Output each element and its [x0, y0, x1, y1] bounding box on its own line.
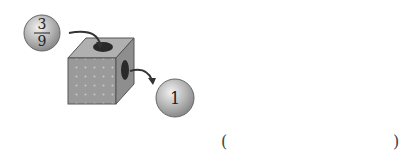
answer-open-paren: (: [221, 132, 227, 151]
side-hole: [121, 60, 129, 80]
cube-machine: [68, 38, 135, 104]
output-ball: 1: [156, 79, 194, 117]
output-label: 1: [170, 89, 180, 108]
input-ball: 3 9: [24, 15, 60, 51]
function-machine-diagram: 3 9 1: [0, 0, 210, 130]
input-numerator: 3: [38, 16, 47, 32]
answer-blank[interactable]: [232, 132, 384, 152]
answer-close-paren: ): [393, 132, 399, 151]
input-denominator: 9: [38, 33, 47, 49]
